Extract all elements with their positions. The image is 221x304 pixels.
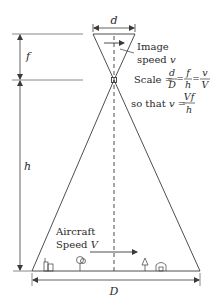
camera-geometry-diagram: d f h [0, 0, 221, 304]
svg-text:=: = [192, 74, 200, 84]
svg-text:h: h [186, 104, 192, 115]
svg-text:D: D [167, 79, 176, 90]
aircraft-speed-label-line1: Aircraft [55, 226, 95, 237]
f-dimension: f [12, 34, 83, 80]
D-dimension: D [32, 273, 200, 298]
h-dimension: h [13, 81, 32, 271]
velocity-equation: so that v = Vf h [131, 91, 196, 115]
svg-text:f: f [185, 67, 191, 78]
scale-equation: Scale = d D = f h = v V [134, 67, 210, 90]
house-icon [156, 263, 166, 272]
D-label: D [109, 285, 119, 298]
image-speed-label-line1: Image [137, 41, 169, 52]
svg-text:v: v [202, 67, 208, 78]
h-label: h [24, 160, 31, 173]
tree-icon [77, 257, 86, 272]
svg-text:Vf: Vf [184, 91, 196, 102]
aircraft-speed-label-line2: Speed V [56, 239, 100, 250]
image-speed-label-line2: speed v [137, 54, 176, 65]
svg-text:so that v =: so that v = [131, 98, 186, 109]
building-icon [44, 258, 53, 271]
svg-text:=: = [176, 74, 184, 84]
d-label: d [110, 14, 117, 27]
f-label: f [25, 50, 32, 63]
small-tree-icon [142, 258, 148, 271]
svg-text:d: d [169, 67, 175, 78]
svg-text:h: h [185, 79, 191, 90]
svg-text:V: V [202, 79, 210, 90]
d-dimension: d [93, 14, 135, 32]
